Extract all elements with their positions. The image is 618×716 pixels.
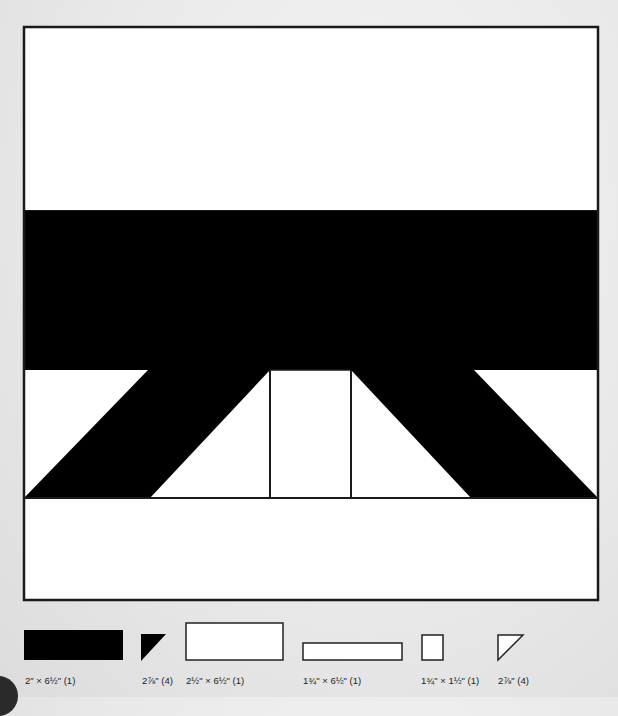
top-white-band xyxy=(24,27,598,211)
quilt-block xyxy=(0,0,618,610)
dark-rect-swatch-icon xyxy=(24,630,124,661)
legend-label: 2⅞" (4) xyxy=(498,675,529,686)
light-triangle-swatch-icon xyxy=(497,634,525,662)
legend-label: 2" × 6½" (1) xyxy=(25,675,75,686)
legend-label: 1¾" × 6½" (1) xyxy=(303,675,361,686)
legend-label: 2½" × 6½" (1) xyxy=(186,675,244,686)
page-corner-shadow xyxy=(0,676,18,716)
light-square-swatch-icon xyxy=(421,634,445,662)
legend-label: 2⅞" (4) xyxy=(142,675,173,686)
light-strip-swatch-icon xyxy=(302,642,404,662)
dark-triangle-swatch-icon xyxy=(141,634,167,662)
black-band xyxy=(24,211,598,370)
light-rect-swatch-icon xyxy=(185,622,285,662)
legend-label: 1¾" × 1½" (1) xyxy=(421,675,479,686)
bottom-white-band xyxy=(24,498,598,600)
